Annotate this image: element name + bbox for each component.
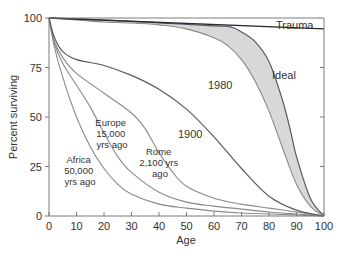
x-axis-title: Age	[176, 234, 196, 246]
label-1900: 1900	[178, 128, 202, 140]
y-tick-label: 75	[30, 62, 42, 74]
survival-chart: 0102030405060708090100 0255075100 Age Pe…	[0, 0, 347, 261]
x-tick-label: 20	[98, 220, 110, 232]
y-axis-title: Percent surviving	[7, 75, 19, 159]
label-europe: Europe 15,000 yrs ago	[95, 117, 128, 150]
y-tick-label: 50	[30, 111, 42, 123]
x-tick-label: 50	[180, 220, 192, 232]
y-tick-label: 25	[30, 161, 42, 173]
x-tick-label: 0	[46, 220, 52, 232]
y-tick-label: 100	[24, 12, 42, 24]
x-tick-label: 60	[208, 220, 220, 232]
label-1980: 1980	[208, 79, 232, 91]
x-tick-label: 70	[235, 220, 247, 232]
y-tick-label: 0	[36, 210, 42, 222]
label-ideal: Ideal	[272, 69, 296, 81]
x-tick-label: 90	[290, 220, 302, 232]
x-tick-label: 10	[70, 220, 82, 232]
x-tick-label: 80	[263, 220, 275, 232]
x-tick-label: 40	[153, 220, 165, 232]
label-trauma: Trauma	[276, 19, 314, 31]
label-africa: Africa 50,000 yrs ago	[64, 154, 96, 187]
x-tick-label: 30	[125, 220, 137, 232]
x-tick-label: 100	[315, 220, 333, 232]
